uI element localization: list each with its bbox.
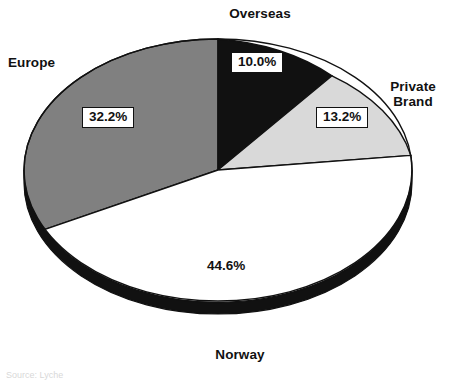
slice-value-europe: 32.2% xyxy=(82,107,134,128)
source-note: Source: Lyche xyxy=(6,370,63,380)
slice-value-norway: 44.6% xyxy=(207,259,245,273)
slice-label-private-brand: Private Brand xyxy=(378,79,448,109)
slice-value-overseas: 10.0% xyxy=(231,52,283,73)
slice-label-overseas: Overseas xyxy=(200,6,320,21)
slice-label-europe: Europe xyxy=(8,55,80,70)
slice-value-private-brand: 13.2% xyxy=(316,107,368,128)
slice-label-norway: Norway xyxy=(180,347,300,362)
